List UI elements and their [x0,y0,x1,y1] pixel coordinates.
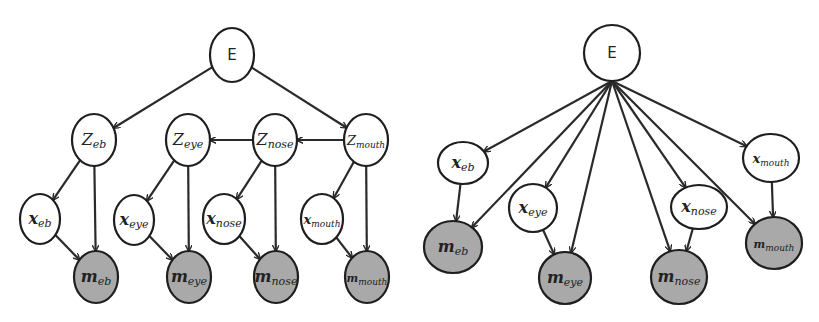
node-m-nose: mnose [651,250,707,304]
nodes-right: Exebxeyexnosexmouthmebmeyemnosemmouth [424,25,802,304]
edge-x-mouth-to-m-mouth [336,237,352,257]
node-e: E [584,25,640,81]
edge-x-nose-to-m-nose [686,228,692,251]
edge-x-eye-to-m-eye [543,230,554,255]
node-z-eb: Zeb [72,114,116,166]
node-label: E [607,44,616,62]
flat-model-panel: Exebxeyexnosexmouthmebmeyemnosemmouth [424,25,802,304]
node-m-eye: meye [167,251,211,303]
edge-x-eb-to-m-eb [456,184,460,221]
node-m-nose: mnose [254,251,298,303]
edge-e-to-m-nose [612,81,670,251]
node-x-eb: xeb [20,194,60,244]
node-z-mouth: Zmouth [344,114,388,166]
node-z-eye: Zeye [166,114,210,166]
edge-e-to-m-eye [571,81,612,253]
node-label: E [227,46,236,64]
node-x-nose: xnose [203,194,245,244]
edge-z-eb-to-x-eb [53,160,80,200]
node-x-nose: xnose [671,185,727,229]
edge-x-mouth-to-m-mouth [772,182,773,217]
edge-z-mouth-to-m-mouth [366,166,367,251]
edge-z-nose-to-m-nose [275,166,276,251]
edge-e-to-x-eye [546,81,612,188]
hierarchical-model-panel: EZebZeyeZnoseZmouthxebxeyexnosexmouthmeb… [20,28,389,303]
edge-z-eye-to-m-eye [188,166,189,251]
node-z-nose: Znose [253,114,297,166]
node-x-mouth: xmouth [743,134,799,182]
node-x-eye: xeye [509,184,557,232]
edge-e-to-x-mouth [612,81,747,146]
node-m-mouth: mmouth [345,251,389,303]
node-m-mouth: mmouth [746,217,802,269]
graphical-model-diagram: EZebZeyeZnoseZmouthxebxeyexnosexmouthmeb… [0,0,819,322]
edge-z-eb-to-m-eb [94,166,95,251]
node-m-eye: meye [539,252,591,304]
edge-x-eye-to-m-eye [149,236,172,260]
edge-e-to-x-nose [612,81,686,188]
node-m-eb: meb [424,221,482,273]
edges-right [456,81,773,254]
node-x-mouth: xmouth [301,194,343,244]
node-e: E [210,28,254,82]
edge-x-eb-to-m-eb [55,235,79,260]
edge-z-mouth-to-x-mouth [334,162,354,198]
edge-z-eye-to-x-eye [147,160,174,201]
edge-z-nose-to-x-nose [237,161,262,200]
node-x-eye: xeye [114,195,154,245]
edge-e-to-x-eb [484,81,612,151]
node-m-eb: meb [74,251,118,303]
edge-x-nose-to-m-nose [239,236,260,259]
node-x-eb: xeb [438,142,488,184]
